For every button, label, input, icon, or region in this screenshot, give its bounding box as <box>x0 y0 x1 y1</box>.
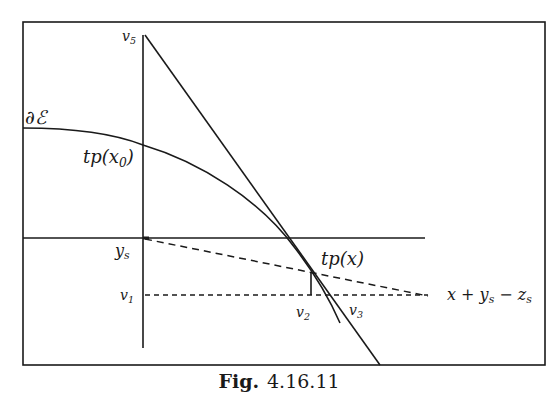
tp-x0-label: tp(x0) <box>83 148 134 169</box>
v1-label: v1 <box>120 288 134 304</box>
figure-frame <box>23 22 545 365</box>
boundary-curve <box>23 128 340 323</box>
tp-x-label: tp(x) <box>321 250 364 268</box>
line-eq-sub2: s <box>526 293 532 306</box>
figure-caption: Fig.4.16.11 <box>0 370 558 392</box>
caption-number: 4.16.11 <box>267 370 340 392</box>
line-eq-b: − z <box>494 285 526 304</box>
v5-sub: 5 <box>130 35 136 46</box>
v3-label: v3 <box>349 303 363 319</box>
tp-x0-sub: 0 <box>119 156 127 170</box>
tangent-line-v5 <box>145 35 380 365</box>
caption-prefix: Fig. <box>218 370 259 392</box>
v3-sub: 3 <box>357 309 363 320</box>
line-equation-label: x + ys − zs <box>447 287 532 306</box>
v2-main: v <box>296 304 304 320</box>
tp-x0-main: tp(x <box>83 146 119 167</box>
line-eq-a: x + y <box>447 285 489 304</box>
dashed-line-ys <box>145 239 428 296</box>
ys-main: y <box>115 241 124 260</box>
v5-label: v5 <box>122 29 136 45</box>
v5-main: v <box>122 28 130 44</box>
v1-sub: 1 <box>128 294 134 305</box>
diagram-canvas <box>0 0 558 411</box>
tp-x0-close: ) <box>127 146 134 167</box>
v1-main: v <box>120 287 128 303</box>
v2-label: v2 <box>296 305 310 321</box>
boundary-label: ∂ℰ <box>25 108 47 127</box>
ys-label: ys <box>115 243 130 262</box>
ys-sub: s <box>124 249 130 262</box>
v2-sub: 2 <box>304 311 310 322</box>
v3-main: v <box>349 302 357 318</box>
